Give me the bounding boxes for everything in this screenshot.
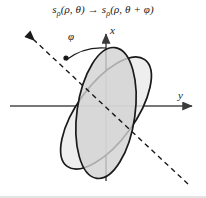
vertex-marker <box>63 55 68 60</box>
x-axis-label: x <box>110 25 115 36</box>
diagram-canvas <box>0 0 206 198</box>
angle-label-phi: φ <box>68 31 74 42</box>
y-axis-label: y <box>178 90 183 101</box>
figure-container: sρ(ρ, θ)→sρ(ρ, θ + φ) <box>0 0 206 198</box>
